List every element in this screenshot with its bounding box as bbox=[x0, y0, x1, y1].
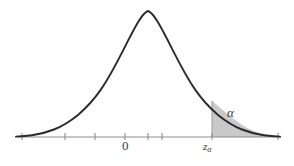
z-alpha-tick-label: zα bbox=[203, 141, 211, 154]
alpha-area-label: α bbox=[227, 106, 234, 119]
distribution-plot bbox=[0, 0, 294, 166]
normal-distribution-figure: 0 zα α bbox=[0, 0, 294, 166]
z-alpha-subscript: α bbox=[207, 145, 211, 154]
normal-curve bbox=[16, 11, 280, 137]
origin-tick-label: 0 bbox=[122, 139, 129, 152]
